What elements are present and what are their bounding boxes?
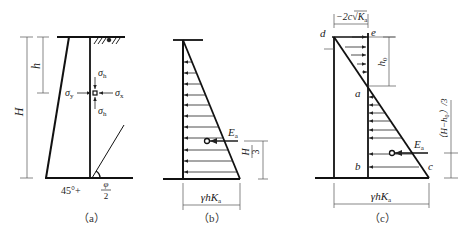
label-Ea: Ea: [413, 138, 425, 152]
caption-c: （c）: [369, 212, 396, 224]
tension-arrows: [345, 37, 367, 72]
panel-a-retaining-wall-stress-state: H h σh σh σy σx 45°+ φ 2 （a）: [12, 37, 133, 224]
label-H-den: 3: [250, 150, 261, 155]
dimension-H-over-3: [244, 141, 268, 179]
label-sigma-y: σy: [65, 87, 74, 100]
earth-pressure-diagram: H h σh σh σy σx 45°+ φ 2 （a）: [0, 0, 468, 235]
label-sigma-h-bottom: σh: [98, 105, 107, 118]
label-neg-2c-sqrt-Ka: −2c√Ka: [336, 11, 368, 24]
caption-b: （b）: [198, 212, 226, 224]
panel-c-cohesive-pressure: Ea d e a b c −2c√Ka h0 （H−h0）/3: [315, 11, 458, 224]
pressure-hypotenuse: [183, 40, 240, 179]
label-H-minus-h0-over-3: （H−h0）/3: [439, 98, 450, 144]
resultant-point: [205, 139, 210, 144]
label-h0: h0: [375, 57, 389, 67]
label-sigma-h-top: σh: [98, 67, 107, 80]
label-point-b: b: [355, 160, 361, 172]
label-Ea: Ea: [227, 126, 239, 140]
label-point-c: c: [428, 160, 433, 172]
soil-element-square: [93, 91, 97, 95]
angle-arc: [96, 171, 100, 178]
wall-back-slanted: [46, 37, 69, 178]
label-angle-2: 2: [104, 191, 109, 201]
label-sigma-x: σx: [115, 87, 124, 100]
label-gamma-h-Ka: γhKa: [201, 191, 222, 205]
resultant-point: [390, 151, 395, 156]
label-point-a: a: [355, 87, 361, 99]
label-h: h: [29, 63, 43, 69]
dimension-H: [20, 37, 33, 178]
label-point-e: e: [371, 26, 376, 38]
label-angle-phi: φ: [104, 179, 109, 189]
panel-b-cohesionless-pressure: Ea H 3 γhKa （b）: [163, 40, 268, 224]
compression-arrows: [369, 97, 419, 167]
label-H: H: [12, 106, 26, 117]
label-gamma-h-Ka: γhKa: [371, 190, 392, 204]
label-angle-prefix: 45°+: [61, 185, 81, 196]
label-point-d: d: [320, 27, 326, 39]
soil-hatch-icon: [94, 38, 120, 44]
slip-plane-line: [92, 125, 124, 178]
caption-a: （a）: [78, 212, 105, 224]
